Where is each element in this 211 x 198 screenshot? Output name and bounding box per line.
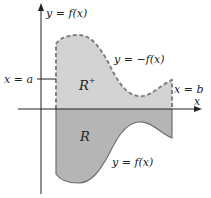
diagram-canvas bbox=[0, 0, 211, 198]
region-r-plus-label: R+ bbox=[79, 79, 96, 92]
upper-curve-label: y = −f(x) bbox=[114, 54, 165, 65]
region-r bbox=[56, 109, 172, 183]
x-axis-label: x bbox=[194, 96, 200, 107]
left-bound-label: x = a bbox=[4, 74, 33, 85]
right-bound-label: x = b bbox=[174, 84, 203, 95]
y-axis-label: y = f(x) bbox=[46, 8, 87, 19]
solid-of-revolution-diagram: y = f(x) x y = −f(x) y = f(x) x = a x = … bbox=[0, 0, 211, 198]
region-r-label: R bbox=[80, 130, 90, 143]
y-axis-arrow-icon bbox=[38, 3, 44, 11]
lower-curve-label: y = f(x) bbox=[112, 157, 153, 168]
